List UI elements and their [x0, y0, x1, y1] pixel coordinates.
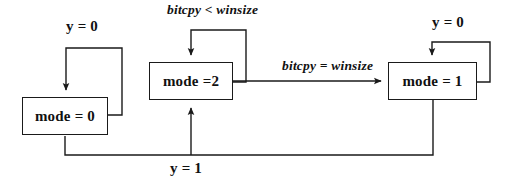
state-diagram: mode = 0 mode =2 mode = 1 y = 0 bitcpy <… — [0, 0, 514, 189]
state-box-mode-1[interactable]: mode = 1 — [388, 62, 477, 100]
edge-label-self-loop-mode-0: y = 0 — [66, 18, 98, 35]
edge-label-mode-2-to-mode-1: bitcpy = winsize — [282, 58, 373, 74]
state-box-mode-0[interactable]: mode = 0 — [22, 97, 108, 135]
state-label-mode-1: mode = 1 — [402, 73, 462, 90]
state-label-mode-2: mode =2 — [163, 73, 219, 90]
state-box-mode-2[interactable]: mode =2 — [149, 62, 233, 100]
edge-label-feedback-y1: y = 1 — [170, 160, 202, 177]
edge-feedback-bus-right — [65, 100, 433, 155]
state-label-mode-0: mode = 0 — [35, 108, 95, 125]
edge-label-self-loop-mode-2: bitcpy < winsize — [167, 2, 258, 18]
edge-label-self-loop-mode-1: y = 0 — [432, 14, 464, 31]
